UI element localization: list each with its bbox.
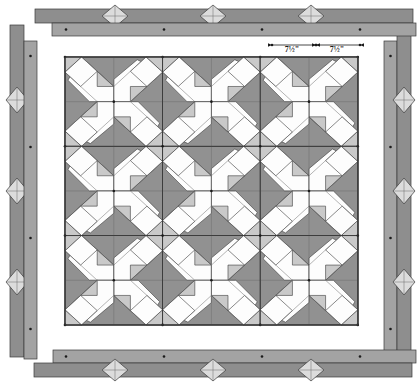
block-corner-dot — [161, 234, 164, 237]
block-center-dot — [113, 279, 116, 282]
border-strip-right-inner — [384, 41, 397, 359]
block-center-dot — [308, 279, 311, 282]
seam-dot-marker — [163, 28, 166, 31]
pinwheel-star-block — [260, 236, 358, 325]
block-center-dot — [210, 100, 213, 103]
block-corner-dot — [161, 145, 164, 148]
block-center-dot — [308, 100, 311, 103]
quilt-assembly-diagram: 7½"7½" — [0, 0, 420, 384]
seam-dot-marker — [29, 146, 32, 149]
dimension-label: 7½" — [330, 45, 344, 54]
block-corner-dot — [259, 145, 262, 148]
quilt-center-group — [64, 56, 359, 327]
block-center-dot — [308, 190, 311, 193]
dimension-endpoint-dot — [359, 44, 362, 47]
border-strip-top-inner — [52, 23, 416, 36]
seam-dot-marker — [389, 237, 392, 240]
pinwheel-star-block — [163, 57, 261, 146]
border-strip-right-inner-body — [384, 41, 397, 359]
border-strip-bottom-inner — [53, 350, 416, 363]
block-center-dot — [113, 100, 116, 103]
pinwheel-star-block — [65, 236, 163, 325]
seam-dot-marker — [65, 28, 68, 31]
seam-dot-marker — [359, 355, 362, 358]
pinwheel-star-block — [260, 146, 358, 235]
seam-dot-marker — [389, 55, 392, 58]
dimension-label: 7½" — [285, 45, 299, 54]
dimension-endpoint-dot — [315, 44, 318, 47]
block-center-dot — [210, 190, 213, 193]
block-center-dot — [210, 279, 213, 282]
seam-dot-marker — [163, 355, 166, 358]
border-strip-top-inner-body — [52, 23, 416, 36]
pinwheel-star-block — [163, 146, 261, 235]
pinwheel-star-block — [65, 146, 163, 235]
pinwheel-star-block — [260, 57, 358, 146]
block-corner-dot — [259, 234, 262, 237]
seam-dot-marker — [29, 328, 32, 331]
pinwheel-star-block — [65, 57, 163, 146]
block-center-dot — [113, 190, 116, 193]
seam-dot-marker — [261, 28, 264, 31]
seam-dot-marker — [29, 237, 32, 240]
seam-dot-marker — [389, 328, 392, 331]
border-strip-left-inner — [24, 41, 37, 359]
seam-dot-marker — [389, 146, 392, 149]
seam-dot-marker — [65, 355, 68, 358]
border-strip-bottom-inner-body — [53, 350, 416, 363]
dimension-endpoint-dot — [271, 44, 274, 47]
seam-dot-marker — [29, 55, 32, 58]
seam-dot-marker — [261, 355, 264, 358]
border-strip-left-inner-body — [24, 41, 37, 359]
seam-dot-marker — [359, 28, 362, 31]
pinwheel-star-block — [163, 236, 261, 325]
diagram-canvas: 7½"7½" — [0, 0, 420, 384]
